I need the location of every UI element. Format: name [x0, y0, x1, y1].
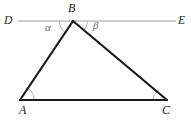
triangle-ABC — [20, 21, 167, 100]
angle-label-alpha: α — [45, 22, 51, 33]
geometry-canvas — [0, 0, 191, 120]
vertex-label-A: A — [19, 104, 26, 116]
geometry-figure: B A C D E α β — [0, 0, 191, 120]
vertex-label-C: C — [162, 104, 170, 116]
arc-angle-A — [28, 88, 34, 99]
endpoint-label-E: E — [178, 15, 185, 27]
side-BC — [73, 21, 167, 100]
vertex-label-B: B — [68, 2, 75, 14]
angle-label-beta: β — [93, 20, 98, 31]
angle-arcs — [28, 22, 158, 100]
endpoint-label-D: D — [4, 15, 12, 27]
